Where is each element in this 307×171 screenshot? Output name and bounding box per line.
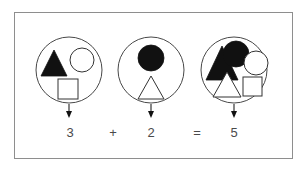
group-c-white-square-icon xyxy=(243,77,262,96)
group-b-black-circle-icon xyxy=(138,45,164,71)
diagram-canvas: 3 + 2 = 5 xyxy=(0,0,307,171)
arrow-group-b-head-icon xyxy=(148,111,154,118)
group-c xyxy=(201,37,268,118)
arrow-group-c-head-icon xyxy=(231,111,237,118)
arrow-group-a-head-icon xyxy=(66,111,72,118)
equation-operator-equals: = xyxy=(187,126,207,140)
group-a-white-square-icon xyxy=(58,79,78,99)
group-c-white-circle-icon xyxy=(244,51,268,75)
diagram-shapes-layer xyxy=(0,0,307,171)
equation-result: 5 xyxy=(224,126,244,140)
group-a xyxy=(36,37,102,118)
equation-term-2: 2 xyxy=(141,126,161,140)
equation-term-1: 3 xyxy=(60,126,80,140)
group-a-white-circle-icon xyxy=(70,48,94,72)
equation-operator-plus: + xyxy=(103,126,123,140)
group-b xyxy=(118,37,184,118)
